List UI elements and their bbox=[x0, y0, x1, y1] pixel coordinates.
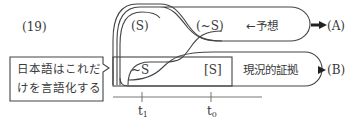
label-not-s-paren: (~S) bbox=[196, 19, 224, 33]
t0-subscript: 0 bbox=[212, 110, 217, 119]
label-prediction: ←予想 bbox=[246, 19, 278, 33]
callout-line-1: 日本語はこれだ bbox=[17, 62, 101, 76]
arrow-a-head bbox=[319, 21, 327, 29]
callout-line-2: けを言語化する bbox=[17, 81, 101, 95]
time-label-t0: t0 bbox=[207, 104, 217, 122]
time-label-t1: t1 bbox=[138, 104, 148, 122]
label-not-s: ~S bbox=[131, 63, 149, 77]
outcome-a: (A) bbox=[327, 19, 345, 33]
example-number: (19) bbox=[22, 20, 47, 34]
label-s-bracket: [S] bbox=[204, 63, 222, 77]
path-b-lower bbox=[150, 30, 230, 63]
outcome-b: (B) bbox=[327, 63, 345, 77]
label-evidence: 現況的証拠 bbox=[243, 63, 298, 77]
t1-subscript: 1 bbox=[143, 110, 148, 119]
label-s-paren: (S) bbox=[131, 19, 149, 33]
